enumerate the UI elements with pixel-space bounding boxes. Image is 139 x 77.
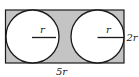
left-circle: [6, 10, 59, 63]
diagram-canvas: r r 2r 5r: [0, 0, 139, 77]
height-label: 2r: [126, 32, 139, 43]
right-circle: [71, 10, 124, 63]
width-label: 5r: [56, 66, 68, 77]
